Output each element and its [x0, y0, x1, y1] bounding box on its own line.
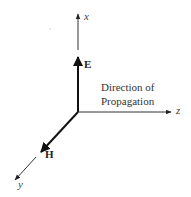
h-vector-label: H	[45, 148, 54, 160]
propagation-label-line2: Propagation	[101, 94, 154, 108]
propagation-label: Direction of Propagation	[101, 80, 154, 108]
z-axis-label: z	[176, 104, 180, 116]
e-vector-label: E	[84, 58, 91, 70]
y-axis-line	[15, 157, 36, 180]
em-wave-diagram: x E Direction of Propagation z H y	[0, 0, 191, 197]
axes-drawing	[0, 0, 191, 197]
h-vector-arrow	[41, 112, 78, 152]
y-axis-label: y	[18, 178, 23, 190]
x-axis-label: x	[84, 10, 89, 22]
propagation-label-line1: Direction of	[101, 80, 154, 94]
